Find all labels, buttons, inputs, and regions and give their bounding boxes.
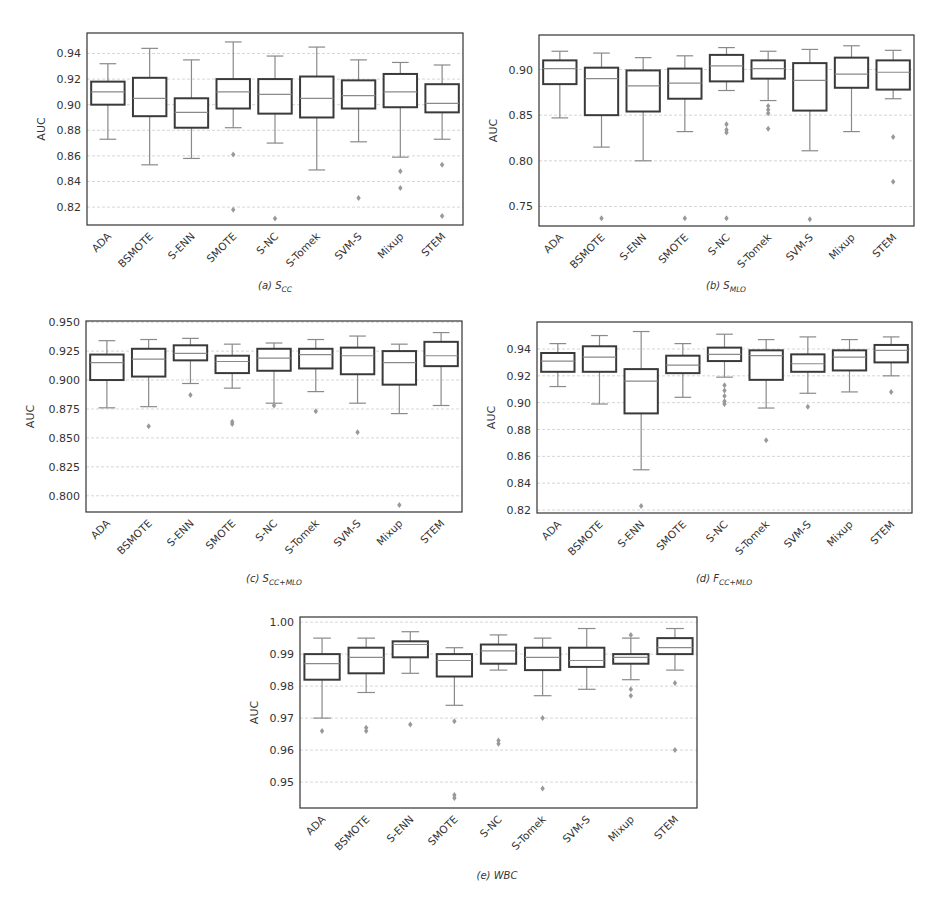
outlier-marker: [806, 404, 810, 410]
x-tick-label: S-NC: [477, 813, 504, 840]
x-tick-label: S-NC: [703, 518, 730, 545]
box-s-enn: [627, 58, 660, 161]
box-s-tomek: [300, 47, 333, 170]
y-axis-label: AUC: [485, 406, 498, 430]
box-smote: [216, 344, 249, 427]
outlier-marker: [540, 785, 544, 791]
outlier-marker: [639, 503, 643, 509]
x-tick-label: S-ENN: [164, 517, 196, 549]
outlier-marker: [722, 382, 726, 388]
x-tick-label: S-Tomek: [283, 229, 323, 269]
box-bsmote: [133, 48, 166, 164]
outlier-marker: [764, 437, 768, 443]
outlier-marker: [722, 393, 726, 399]
outlier-marker: [364, 728, 368, 734]
caption-a: (a) SCC: [258, 280, 292, 294]
x-tick-label: SMOTE: [425, 813, 460, 848]
box-mixup: [383, 344, 416, 508]
caption-sub: CC+MLO: [269, 578, 302, 587]
box-s-enn: [174, 338, 207, 398]
outlier-marker: [440, 162, 444, 168]
box-s-nc: [481, 635, 516, 747]
y-tick-label: 0.82: [507, 504, 532, 517]
box-bsmote: [349, 638, 384, 734]
box-svm-s: [342, 60, 375, 201]
x-tick-label: ADA: [541, 230, 566, 255]
x-tick-label: STEM: [652, 813, 681, 842]
box-s-nc: [710, 48, 743, 222]
x-tick-label: Mixup: [374, 517, 405, 548]
outlier-marker: [273, 216, 277, 222]
outlier-marker: [398, 168, 402, 174]
box-ada: [91, 64, 124, 140]
outlier-marker: [320, 728, 324, 734]
y-axis-label: AUC: [248, 701, 261, 725]
x-tick-label: STEM: [870, 231, 899, 260]
outlier-marker: [766, 126, 770, 132]
outlier-marker: [629, 632, 633, 638]
caption-c: (c) SCC+MLO: [246, 573, 302, 587]
outlier-marker: [722, 388, 726, 394]
x-tick-label: S-ENN: [617, 231, 649, 263]
x-tick-label: Mixup: [824, 518, 855, 549]
boxplot-svg: 0.950.960.970.980.991.00AUCADABSMOTES-EN…: [300, 617, 697, 808]
x-tick-label: S-ENN: [165, 230, 197, 262]
y-tick-label: 0.95: [270, 776, 295, 789]
outlier-marker: [891, 134, 895, 140]
x-tick-label: BSMOTE: [565, 518, 605, 558]
x-tick-label: ADA: [539, 517, 564, 542]
x-tick-label: S-Tomek: [734, 230, 774, 270]
y-tick-label: 0.92: [57, 73, 82, 86]
box-svm-s: [791, 337, 824, 410]
y-tick-label: 0.800: [49, 490, 81, 503]
box-s-tomek: [299, 340, 332, 415]
y-tick-label: 0.950: [49, 316, 81, 329]
box-stem: [424, 333, 457, 406]
outlier-marker: [629, 693, 633, 699]
x-tick-label: BSMOTE: [115, 230, 155, 270]
outlier-marker: [231, 152, 235, 158]
x-tick-label: Mixup: [375, 230, 406, 261]
caption-prefix: (e): [477, 870, 494, 881]
caption-e: (e) WBC: [477, 870, 518, 884]
outlier-marker: [188, 392, 192, 398]
x-tick-label: STEM: [868, 518, 897, 547]
box-svm-s: [569, 629, 604, 690]
box-smote: [668, 56, 701, 222]
y-tick-label: 0.97: [270, 712, 295, 725]
outlier-marker: [355, 429, 359, 435]
box-smote: [666, 344, 699, 398]
y-tick-label: 0.98: [270, 680, 295, 693]
chart-panel-b: 0.750.800.850.90AUCADABSMOTES-ENNSMOTES-…: [539, 35, 914, 226]
box-svm-s: [341, 336, 374, 435]
box-s-nc: [257, 343, 290, 409]
x-tick-label: ADA: [89, 229, 114, 254]
x-tick-label: BSMOTE: [567, 231, 607, 271]
boxplot-svg: 0.750.800.850.90AUCADABSMOTES-ENNSMOTES-…: [539, 35, 914, 226]
caption-sub: CC+MLO: [719, 578, 752, 587]
box-s-enn: [393, 632, 428, 728]
box-s-enn: [625, 332, 658, 509]
y-tick-label: 0.850: [49, 432, 81, 445]
y-tick-label: 0.875: [49, 403, 81, 416]
x-tick-label: STEM: [418, 517, 447, 546]
y-tick-label: 0.825: [49, 461, 81, 474]
box-stem: [425, 65, 458, 219]
x-tick-label: S-ENN: [615, 518, 647, 550]
box-s-nc: [258, 56, 291, 222]
x-tick-label: S-Tomek: [509, 812, 549, 852]
caption-prefix: (b): [706, 280, 723, 291]
box-mixup: [384, 62, 417, 190]
outlier-marker: [629, 686, 633, 692]
y-tick-label: 0.94: [57, 47, 82, 60]
caption-prefix: (a): [258, 280, 275, 291]
box-stem: [877, 50, 910, 184]
x-tick-label: SVM-S: [331, 517, 363, 549]
box-stem: [875, 337, 908, 395]
box-s-tomek: [525, 638, 560, 791]
y-tick-label: 0.90: [57, 99, 82, 112]
outlier-marker: [452, 795, 456, 801]
x-tick-label: SMOTE: [656, 231, 691, 266]
caption-main: WBC: [494, 870, 518, 881]
x-tick-label: SMOTE: [204, 230, 239, 265]
